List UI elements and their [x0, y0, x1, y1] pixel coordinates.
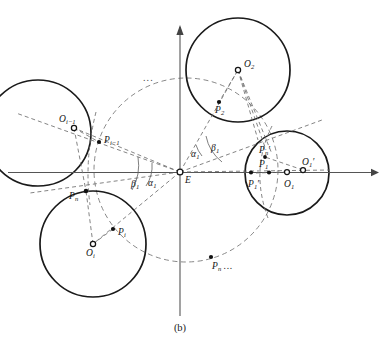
point-marker-Pn-tail [209, 255, 213, 259]
point-marker-E-origin [177, 169, 183, 175]
point-marker-Pi [111, 227, 115, 231]
segment-O2-down-c [238, 70, 272, 154]
point-marker-Pi-minus-1 [97, 140, 101, 144]
label-Pn-tail: Pn ... [212, 262, 233, 272]
label-Oi: Oi [86, 249, 95, 259]
ray-E-to-O1-prime [180, 170, 330, 172]
point-marker-P2 [217, 100, 221, 104]
label-P1: P1 [259, 160, 268, 170]
point-marker-O2 [235, 67, 240, 72]
ray-E-beta1-upper [180, 120, 322, 172]
label-E-origin: E [185, 176, 191, 186]
point-marker-P1-prime [249, 170, 253, 174]
horizontal-axis-arrow [371, 169, 379, 176]
point-marker-P1 [267, 170, 271, 174]
label-Pn-prime: Pn′ [259, 146, 270, 156]
label-O1-prime: O1′ [302, 158, 314, 168]
label-O1: O1 [284, 180, 294, 190]
label-Oi-minus-1: Oi−1 [59, 115, 75, 125]
label-Pi-minus-1: Pi−1 [104, 136, 119, 146]
ellipsis-top: ... [143, 72, 154, 83]
figure-container: O2 P2 Oi−1 Pi−1 Pn Pi Oi Pn′ P1 P1′ O1 O… [0, 0, 384, 345]
vertical-axis-arrow [176, 25, 183, 35]
label-beta1-lower: β1 [131, 180, 139, 190]
ray-E-lower-left [30, 172, 180, 193]
segment-Oi-Pi [93, 229, 113, 244]
point-marker-O1 [285, 170, 290, 175]
label-P1-prime: P1′ [248, 180, 259, 190]
figure-caption: (b) [174, 322, 186, 333]
segment-O2-down-a [238, 70, 258, 140]
segment-O2-down-b [238, 70, 266, 150]
point-marker-O1-prime [301, 168, 306, 173]
geometry-diagram [0, 0, 384, 345]
point-marker-Oi [90, 241, 95, 246]
label-beta1-upper: β1 [211, 144, 219, 154]
segment-O1-prime-Pn-prime [265, 157, 303, 170]
label-Pi: Pi [118, 228, 126, 238]
ray-E-to-Oi-minus-1 [74, 128, 180, 172]
label-Pn: Pn [69, 192, 78, 202]
label-P2: P2 [215, 106, 224, 116]
point-marker-Pn [84, 189, 89, 194]
label-O2: O2 [244, 60, 254, 70]
point-marker-Oi-minus-1 [71, 125, 76, 130]
circle-upper-left [0, 80, 91, 186]
label-alpha1-upper: α1 [191, 150, 199, 160]
label-alpha1-lower: α1 [148, 179, 156, 189]
